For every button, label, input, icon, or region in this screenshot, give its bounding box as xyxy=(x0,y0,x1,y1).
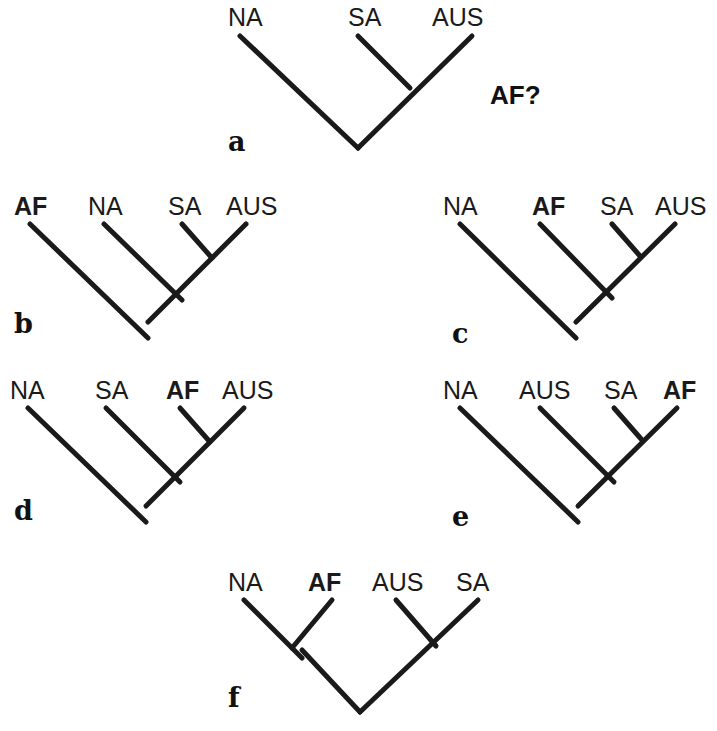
tree-e-tip-label-aus: AUS xyxy=(519,378,570,403)
tree-c-tip-label-na: NA xyxy=(443,194,478,219)
tree-c-sa-branch xyxy=(612,224,640,256)
tree-b-sa-branch xyxy=(182,224,212,258)
tree-c-tip-label-af: AF xyxy=(532,194,565,219)
tree-a-query-label: AF? xyxy=(490,82,541,108)
panel-letter-d: d xyxy=(14,497,33,524)
tree-d-tip-label-aus: AUS xyxy=(222,378,273,403)
tree-f-tip-label-sa: SA xyxy=(456,570,489,595)
tree-f-aus-branch xyxy=(396,600,436,646)
branch-strokes xyxy=(28,36,677,712)
tree-d-na-branch xyxy=(28,408,146,522)
tree-d-sa-branch xyxy=(106,408,180,482)
tree-a-tip-label-aus: AUS xyxy=(432,5,483,30)
tree-d-tip-label-na: NA xyxy=(10,378,45,403)
tree-e-tip-label-na: NA xyxy=(443,378,478,403)
tree-e-sa-branch xyxy=(614,408,642,440)
tree-c-tip-label-sa: SA xyxy=(600,194,633,219)
tree-b-na-branch xyxy=(104,224,182,300)
tree-c-af-branch xyxy=(540,224,612,298)
tree-b-tip-label-aus: AUS xyxy=(226,194,277,219)
tree-d-tip-label-sa: SA xyxy=(95,378,128,403)
tree-a-sa-branch xyxy=(358,36,410,88)
panel-letter-c: c xyxy=(452,320,468,347)
tree-e-aus-branch xyxy=(540,408,614,482)
panel-letter-e: e xyxy=(452,503,469,530)
tree-f-tip-label-af: AF xyxy=(308,570,341,595)
tree-d-af-branch xyxy=(180,408,210,442)
tree-f-af-branch xyxy=(292,600,332,648)
phylogeny-figure: NASAAUSAF?aAFNASAAUSbNAAFSAAUScNASAAFAUS… xyxy=(0,0,717,731)
tree-a-tip-label-sa: SA xyxy=(348,5,381,30)
tree-f-tip-label-na: NA xyxy=(228,570,263,595)
tree-b-af-branch xyxy=(30,224,148,338)
tree-f-sa-branch xyxy=(360,600,478,712)
tree-f-clade1-stem xyxy=(302,650,360,712)
tree-b-tip-label-na: NA xyxy=(88,194,123,219)
tree-lines-layer xyxy=(0,0,717,731)
tree-e-tip-label-sa: SA xyxy=(604,378,637,403)
tree-a-na-branch xyxy=(240,36,358,148)
panel-letter-f: f xyxy=(228,684,240,711)
tree-c-tip-label-aus: AUS xyxy=(655,194,706,219)
tree-b-tip-label-af: AF xyxy=(14,194,47,219)
tree-f-tip-label-aus: AUS xyxy=(372,570,423,595)
panel-letter-a: a xyxy=(228,128,246,155)
tree-e-tip-label-af: AF xyxy=(663,378,696,403)
panel-letter-b: b xyxy=(14,310,33,337)
tree-d-tip-label-af: AF xyxy=(166,378,199,403)
tree-b-tip-label-sa: SA xyxy=(168,194,201,219)
tree-a-tip-label-na: NA xyxy=(228,5,263,30)
